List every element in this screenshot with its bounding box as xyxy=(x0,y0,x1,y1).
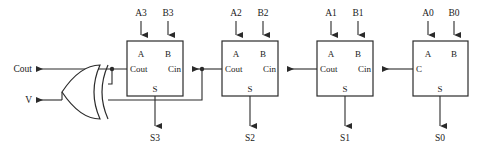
port-label-s-2: S xyxy=(247,84,252,94)
xor-gate-body xyxy=(62,65,100,119)
port-label-a-1: A xyxy=(328,49,335,59)
port-label-cin-3: Cin xyxy=(168,64,182,74)
port-label-c-0: C xyxy=(416,64,422,74)
port-label-a-2: A xyxy=(233,49,240,59)
input-label-a2: A2 xyxy=(230,8,242,18)
port-label-a-0: A xyxy=(425,49,432,59)
port-label-cout-1: Cout xyxy=(320,64,338,74)
xor-gate-outer-arc xyxy=(102,65,108,119)
adder-stage-0: A B C S A0 B0 S0 xyxy=(413,8,468,143)
circuit-diagram: A B Cout Cin S A3 B3 S3 A B Cout Cin S A… xyxy=(0,0,479,151)
port-label-s-0: S xyxy=(437,84,442,94)
v-output-label: V xyxy=(25,95,32,105)
adder-stage-2: A B Cout Cin S A2 B2 S2 xyxy=(222,8,278,143)
port-label-cin-2: Cin xyxy=(263,64,277,74)
sum-label-s2: S2 xyxy=(245,133,255,143)
port-label-b-1: B xyxy=(355,49,361,59)
sum-label-s1: S1 xyxy=(340,133,350,143)
sum-label-s3: S3 xyxy=(150,133,160,143)
port-label-b-0: B xyxy=(451,49,457,59)
port-label-cin-1: Cin xyxy=(358,64,372,74)
port-label-s-1: S xyxy=(342,84,347,94)
input-label-a3: A3 xyxy=(135,8,147,18)
adder-stage-3: A B Cout Cin S A3 B3 S3 xyxy=(127,8,183,143)
sum-label-s0: S0 xyxy=(435,133,445,143)
port-label-b-3: B xyxy=(165,49,171,59)
input-label-a0: A0 xyxy=(422,8,434,18)
input-label-b0: B0 xyxy=(448,8,459,18)
adder-stage-1: A B Cout Cin S A1 B1 S1 xyxy=(317,8,373,143)
port-label-s-3: S xyxy=(152,84,157,94)
input-label-a1: A1 xyxy=(325,8,337,18)
input-label-b2: B2 xyxy=(257,8,268,18)
xor-gate xyxy=(36,65,108,119)
xor-input-upper-wire xyxy=(108,69,112,84)
cout-output-label: Cout xyxy=(14,64,33,74)
port-label-a-3: A xyxy=(138,49,145,59)
input-label-b1: B1 xyxy=(352,8,363,18)
circuit-canvas: A B Cout Cin S A3 B3 S3 A B Cout Cin S A… xyxy=(0,0,479,151)
port-label-cout-2: Cout xyxy=(225,64,243,74)
port-label-b-2: B xyxy=(260,49,266,59)
input-label-b3: B3 xyxy=(162,8,173,18)
port-label-cout-3: Cout xyxy=(130,64,148,74)
